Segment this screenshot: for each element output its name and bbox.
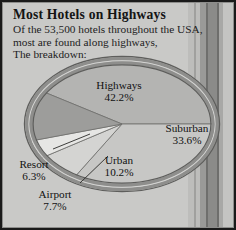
infographic-panel: Most Hotels on Highways Of the 53,500 ho…	[0, 0, 236, 230]
pie-label-airport-value: 7.7%	[24, 201, 86, 213]
subtitle-line-2: most are found along highways,	[13, 36, 209, 49]
page-title: Most Hotels on Highways	[13, 7, 166, 23]
pie-label-airport-name: Airport	[39, 188, 72, 200]
pie-label-highways-name: Highways	[96, 79, 141, 91]
pie-label-suburban: Suburban 33.6%	[150, 123, 224, 146]
pie-label-suburban-value: 33.6%	[150, 135, 224, 147]
pie-label-airport: Airport 7.7%	[24, 189, 86, 212]
pie-label-urban: Urban 10.2%	[92, 155, 146, 178]
pie-label-resort-name: Resort	[19, 158, 48, 170]
pie-label-suburban-name: Suburban	[166, 122, 209, 134]
subtitle-line-1: Of the 53,500 hotels throughout the USA,	[13, 23, 209, 36]
pie-label-resort: Resort 6.3%	[5, 159, 63, 182]
pie-label-resort-value: 6.3%	[5, 171, 63, 183]
pie-label-highways-value: 42.2%	[80, 92, 158, 104]
pie-label-highways: Highways 42.2%	[80, 80, 158, 103]
pie-label-urban-name: Urban	[105, 154, 133, 166]
subtitle: Of the 53,500 hotels throughout the USA,…	[13, 23, 209, 61]
pie-label-urban-value: 10.2%	[92, 167, 146, 179]
subtitle-line-3: The breakdown:	[13, 48, 209, 61]
